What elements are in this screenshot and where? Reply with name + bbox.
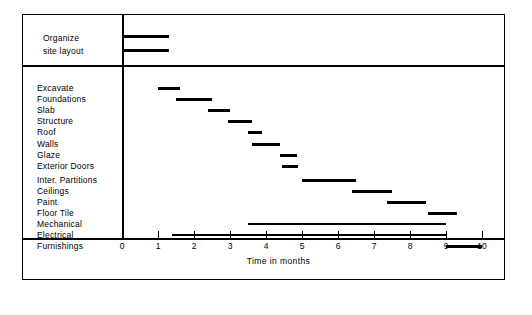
task-label: Furnishings (37, 241, 83, 251)
organize-label-line-1: Organize (43, 33, 79, 43)
task-label: Exterior Doors (37, 161, 94, 171)
task-label: Floor Tile (37, 208, 74, 218)
x-axis-caption: Time in months (23, 256, 504, 266)
x-axis-tick-label: 0 (112, 241, 132, 251)
task-bar (248, 131, 262, 134)
task-label: Mechanical (37, 219, 82, 229)
x-axis-tick (302, 231, 303, 238)
task-bar (208, 109, 230, 112)
x-axis-tick-label: 2 (184, 241, 204, 251)
task-label: Foundations (37, 94, 86, 104)
task-bar (252, 143, 281, 146)
task-bar (282, 165, 298, 168)
task-bar (280, 154, 296, 157)
x-axis-tick (230, 231, 231, 238)
task-bar (428, 212, 457, 215)
x-axis-tick-label: 1 (148, 241, 168, 251)
x-axis-tick-label: 4 (256, 241, 276, 251)
x-axis-caption-text: Time in months (247, 256, 310, 266)
task-bar (248, 223, 446, 225)
x-axis-tick (446, 231, 447, 238)
task-label: Paint (37, 197, 57, 207)
x-axis-tick-label: 5 (292, 241, 312, 251)
task-bar (176, 98, 212, 101)
task-label: Excavate (37, 83, 74, 93)
x-axis-tick-label: 6 (328, 241, 348, 251)
organize-bar (122, 49, 169, 52)
task-label: Roof (37, 127, 56, 137)
section-divider (23, 65, 504, 67)
task-bar (302, 179, 356, 182)
task-bar (158, 87, 180, 90)
organize-bar (122, 35, 169, 38)
x-axis-tick (194, 231, 195, 238)
task-label: Glaze (37, 150, 60, 160)
x-axis-tick-label: 8 (400, 241, 420, 251)
task-bar (172, 234, 446, 236)
gantt-chart-frame: Organizesite layout ExcavateFoundationsS… (22, 14, 505, 280)
task-label: Structure (37, 116, 73, 126)
task-label: Walls (37, 139, 58, 149)
task-bar (387, 201, 427, 204)
x-axis-tick-label: 3 (220, 241, 240, 251)
x-axis-tick (338, 231, 339, 238)
x-axis-tick (158, 231, 159, 238)
x-axis-tick (410, 231, 411, 238)
organize-label-line-2: site layout (43, 46, 83, 56)
x-axis-tick (122, 215, 123, 238)
x-axis-line (23, 238, 504, 240)
x-axis-tick-label: 7 (364, 241, 384, 251)
x-axis-tick (482, 231, 483, 238)
task-label: Inter. Partitions (37, 175, 97, 185)
task-label: Slab (37, 105, 55, 115)
x-axis-tick-label: 9 (436, 241, 456, 251)
x-axis-tick (266, 231, 267, 238)
task-bar (352, 190, 392, 193)
x-axis-tick-label: 10 (472, 241, 492, 251)
task-label: Ceilings (37, 186, 69, 196)
task-label: Electrical (37, 230, 73, 240)
task-bar (228, 120, 251, 123)
x-axis-tick (374, 231, 375, 238)
